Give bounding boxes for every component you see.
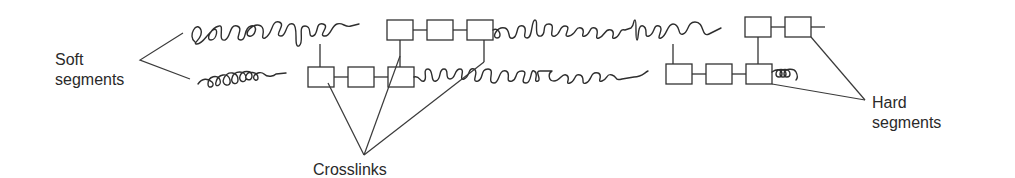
polymer-segment-diagram: Soft segments Hard segments Crosslinks	[0, 0, 1015, 178]
hard-segments-label-line1: Hard	[872, 93, 941, 113]
top-chain-soft-coil-middle	[493, 20, 721, 40]
crosslinks	[320, 37, 758, 67]
bottom-chain-soft-coil-right	[772, 69, 798, 80]
top-chain-hard-block-right	[745, 17, 825, 37]
bottom-chain-soft-coil-left	[198, 72, 286, 88]
hard-segments-leaders	[772, 37, 865, 100]
hard-segments-label: Hard segments	[872, 93, 941, 133]
bottom-chain-soft-coil-middle	[414, 69, 648, 84]
hard-segments-label-line2: segments	[872, 113, 941, 133]
top-chain-soft-coil-left	[192, 22, 359, 46]
bottom-chain-hard-block-right	[666, 64, 772, 84]
soft-segments-label-line1: Soft	[55, 50, 124, 70]
top-chain-hard-block-left	[387, 20, 493, 40]
diagram-graphics	[0, 0, 1015, 178]
soft-segments-leaders	[140, 33, 190, 79]
soft-segments-label: Soft segments	[55, 50, 124, 90]
bottom-chain-hard-block-left	[308, 67, 414, 87]
soft-segments-label-line2: segments	[55, 70, 124, 90]
crosslinks-label: Crosslinks	[313, 160, 387, 178]
